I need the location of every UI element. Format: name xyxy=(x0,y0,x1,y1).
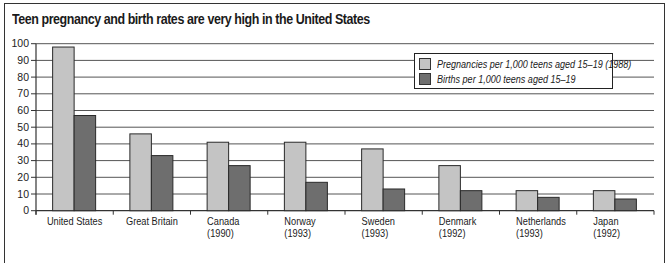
y-tick-label: 90 xyxy=(17,54,29,66)
bar-births xyxy=(151,156,173,211)
legend-item-pregnancies: Pregnancies per 1,000 teens aged 15–19 (… xyxy=(419,57,663,71)
x-category-sublabel: (1992) xyxy=(439,227,466,239)
bar-pregnancies xyxy=(130,134,152,211)
x-category-label: Great Britain xyxy=(126,215,178,227)
legend-item-births: Births per 1,000 teens aged 15–19 xyxy=(419,72,598,86)
y-tick-label: 50 xyxy=(17,121,29,133)
legend-label: Pregnancies per 1,000 teens aged 15–19 (… xyxy=(437,58,631,70)
x-category-label: Denmark xyxy=(439,215,476,227)
bar-pregnancies xyxy=(53,47,75,211)
x-category-sublabel: (1990) xyxy=(207,227,234,239)
legend: Pregnancies per 1,000 teens aged 15–19 (… xyxy=(414,53,613,89)
y-tick-label: 100 xyxy=(11,37,29,49)
bar-pregnancies xyxy=(439,166,461,211)
x-category-sublabel: (1992) xyxy=(593,227,620,239)
bar-births xyxy=(74,116,96,211)
y-tick-label: 0 xyxy=(23,204,29,216)
y-tick-label: 70 xyxy=(17,87,29,99)
x-category-label: United States xyxy=(47,215,102,227)
y-tick-label: 80 xyxy=(17,71,29,83)
x-category-label: Sweden xyxy=(362,215,395,227)
bar-births xyxy=(538,197,560,210)
bar-births xyxy=(460,191,482,211)
x-category-sublabel: (1993) xyxy=(362,227,389,239)
bar-pregnancies xyxy=(284,142,306,210)
y-tick-label: 40 xyxy=(17,137,29,149)
x-category-sublabel: (1993) xyxy=(284,227,311,239)
x-category-label: Japan xyxy=(593,215,618,227)
bar-births xyxy=(306,182,328,210)
y-tick-label: 30 xyxy=(17,154,29,166)
bar-pregnancies xyxy=(362,149,384,211)
y-tick-label: 20 xyxy=(17,171,29,183)
x-category-sublabel: (1993) xyxy=(516,227,543,239)
y-tick-label: 60 xyxy=(17,104,29,116)
bar-pregnancies xyxy=(207,142,229,210)
x-category-label: Netherlands xyxy=(516,215,566,227)
legend-label: Births per 1,000 teens aged 15–19 xyxy=(437,73,576,85)
bar-births xyxy=(615,199,637,211)
bar-births xyxy=(229,166,251,211)
y-tick-label: 10 xyxy=(17,188,29,200)
bar-births xyxy=(383,189,405,211)
bar-pregnancies xyxy=(516,191,538,211)
x-category-label: Norway xyxy=(284,215,315,227)
legend-swatch-dark xyxy=(419,73,431,85)
bar-pregnancies xyxy=(593,191,615,211)
legend-swatch-light xyxy=(419,58,431,70)
x-category-label: Canada xyxy=(207,215,240,227)
